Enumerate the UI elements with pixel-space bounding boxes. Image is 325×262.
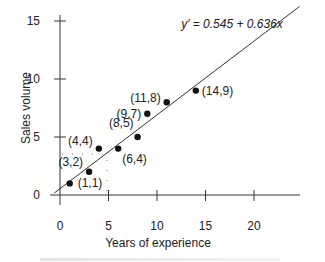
data-point (193, 87, 199, 93)
y-tick-label: 0 (33, 188, 40, 202)
x-tick-label: 5 (105, 219, 112, 233)
point-label: (6,4) (122, 152, 147, 166)
point-label: (3,2) (58, 155, 83, 169)
data-point (164, 99, 170, 105)
x-axis-label: Years of experience (105, 236, 211, 250)
data-point (115, 145, 121, 151)
y-axis-label: Sales volume (19, 72, 33, 144)
data-point (86, 169, 92, 175)
axes: 05101520051015 (27, 6, 300, 233)
data-points: (1,1)(3,2)(4,4)(6,4)(8,5)(9,7)(11,8)(14,… (58, 84, 233, 191)
y-tick-label: 15 (27, 14, 41, 28)
page-edge-shadow (40, 258, 280, 261)
point-label: (14,9) (202, 84, 233, 98)
y-tick-label: 5 (33, 130, 40, 144)
data-point (96, 145, 102, 151)
regression-line (54, 6, 299, 193)
x-tick-label: 0 (57, 219, 64, 233)
scatter-chart: 05101520051015 (1,1)(3,2)(4,4)(6,4)(8,5)… (0, 0, 325, 262)
x-tick-label: 10 (150, 219, 164, 233)
data-point (134, 134, 140, 140)
point-label: (9,7) (117, 107, 142, 121)
data-point (144, 111, 150, 117)
data-point (67, 180, 73, 186)
point-label: (11,8) (130, 91, 160, 105)
regression-equation: y′ = 0.545 + 0.636x (180, 17, 284, 31)
point-label: (1,1) (78, 176, 103, 190)
point-label: (4,4) (68, 134, 93, 148)
x-tick-label: 15 (199, 219, 213, 233)
x-tick-label: 20 (247, 219, 261, 233)
